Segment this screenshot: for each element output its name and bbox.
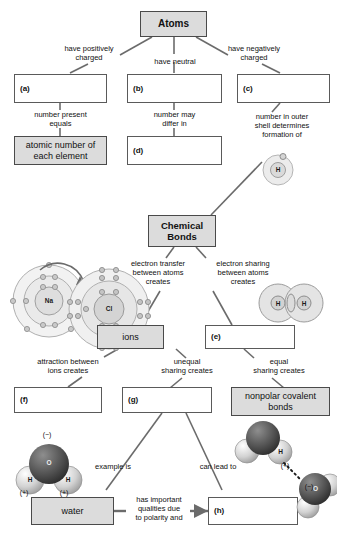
chlorine-atom-nucleus-label: Cl [66, 305, 152, 312]
water-hydrogen-left-label: H [23, 476, 37, 483]
hydrogen-molecule-left-label: H [272, 300, 284, 307]
connector-electron-sharing: electron sharing between atoms creates [203, 259, 283, 286]
node-f-label: (f) [20, 395, 101, 405]
node-nonpolar-covalent-bonds[interactable]: nonpolar covalent bonds [231, 387, 330, 416]
node-atoms[interactable]: Atoms [140, 11, 207, 37]
hydrogen-bond-acceptor-charge-label: (−) [300, 483, 318, 490]
connector-electron-transfer: electron transfer between atoms creates [118, 259, 198, 286]
water-hydrogen-right-charge-label: (+) [55, 489, 73, 496]
node-atoms-label: Atoms [144, 19, 203, 29]
water-hydrogen-right-label: H [61, 476, 75, 483]
connector-number-present-equals: number present equals [14, 110, 107, 128]
node-a[interactable]: (a) [14, 74, 107, 103]
hydrogen-molecule-illustration: H H [258, 282, 324, 324]
water-oxygen-label: O [42, 459, 56, 466]
node-atomic-number[interactable]: atomic number of each element [14, 136, 107, 165]
node-water-label: water [35, 506, 110, 516]
hydrogen-bond-donor-hydrogen-label: H [274, 448, 287, 455]
connector-number-may-differ-in: number may differ in [127, 110, 222, 128]
connector-have-positively-charged: have positively charged [44, 44, 134, 62]
node-g[interactable]: (g) [122, 387, 212, 413]
node-f[interactable]: (f) [14, 387, 102, 413]
connector-attraction-between-ions: attraction between ions creates [16, 357, 120, 375]
hydrogen-bond-donor-charge-label: (+) [276, 462, 294, 469]
node-g-label: (g) [128, 395, 211, 405]
water-hydrogen-left-charge-label: (+) [15, 489, 33, 496]
node-c[interactable]: (c) [237, 74, 330, 103]
connector-has-important-qualities: has important qualities due to polarity … [122, 495, 196, 522]
node-ions[interactable]: ions [97, 325, 164, 349]
node-a-label: (a) [20, 84, 106, 94]
hydrogen-atom-nucleus-label: H [258, 166, 298, 173]
node-b[interactable]: (b) [127, 74, 222, 103]
node-d[interactable]: (d) [127, 136, 222, 165]
connector-have-negatively-charged: have negatively charged [209, 44, 299, 62]
connector-number-outer-shell: number in outer shell determines formati… [232, 112, 332, 139]
water-oxygen-charge-label: (−) [38, 431, 56, 438]
connector-unequal-sharing: unequal sharing creates [148, 357, 226, 375]
node-ions-label: ions [101, 332, 160, 342]
hydrogen-atom-illustration: H [258, 148, 298, 188]
node-d-label: (d) [133, 146, 221, 156]
node-e-label: (e) [211, 332, 294, 342]
node-nonpolar-label: nonpolar covalent bonds [235, 391, 326, 413]
node-c-label: (c) [243, 84, 329, 94]
hydrogen-bond-illustration: H O [238, 425, 337, 520]
node-b-label: (b) [133, 84, 221, 94]
connector-equal-sharing: equal sharing creates [236, 357, 322, 375]
node-atomic-number-label: atomic number of each element [18, 140, 103, 162]
hydrogen-molecule-right-label: H [298, 300, 310, 307]
connector-have-neutral: have neutral [137, 57, 213, 66]
node-chemical-bonds[interactable]: Chemical Bonds [148, 215, 216, 247]
node-e[interactable]: (e) [205, 325, 295, 349]
node-chemical-bonds-label: Chemical Bonds [152, 220, 212, 242]
